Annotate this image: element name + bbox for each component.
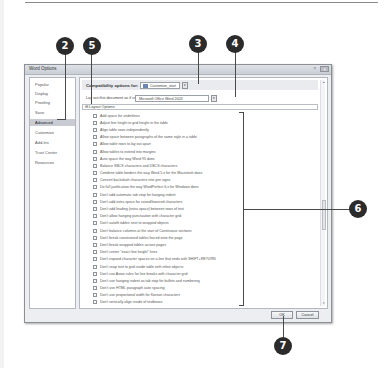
nav-item-popular[interactable]: Popular (30, 81, 75, 88)
list-item[interactable]: Don't use hanging indent as tab stop for… (93, 277, 318, 284)
checkbox[interactable] (93, 121, 97, 125)
callout-3: 3 (189, 35, 207, 53)
scroll-up-icon[interactable]: ▴ (321, 80, 326, 85)
layout-as-value: Microsoft Office Word 2003 (139, 97, 182, 101)
checkbox[interactable] (93, 142, 97, 146)
list-item[interactable]: Don't vertically align inside of textbox… (93, 299, 318, 306)
layout-as-select[interactable]: Microsoft Office Word 2003 (135, 95, 209, 102)
checkbox[interactable] (93, 185, 97, 189)
nav-item-proofing[interactable]: Proofing (30, 99, 75, 106)
checkbox[interactable] (93, 272, 97, 276)
close-button[interactable]: X (320, 66, 329, 72)
checkbox[interactable] (93, 200, 97, 204)
checkbox[interactable] (93, 286, 97, 290)
checkbox[interactable] (93, 193, 97, 197)
checkbox[interactable] (93, 250, 97, 254)
callout-2-leader-h (57, 119, 66, 120)
checkbox[interactable] (93, 265, 97, 269)
compatibility-label: Compatibility options for: (86, 83, 138, 88)
nav-item-trust-center[interactable]: Trust Center (30, 149, 75, 156)
list-item[interactable]: Don't use proportional width for Korean … (93, 292, 318, 299)
list-item[interactable]: Don't break constrained tables forced on… (93, 234, 318, 241)
list-item[interactable]: Don't autofit tables next to wrapped obj… (93, 220, 318, 227)
checkbox[interactable] (93, 293, 97, 297)
callout-4-leader (235, 52, 236, 97)
list-item[interactable]: Don't allow hanging punctuation with cha… (93, 213, 318, 220)
callout-6: 6 (349, 200, 367, 218)
callout-7-leader (283, 316, 284, 338)
checkbox[interactable] (93, 178, 97, 182)
list-item[interactable]: Don't expand character spaces on a line … (93, 256, 318, 263)
list-item[interactable]: Don't snap text to grid inside table wit… (93, 263, 318, 270)
layout-options-title: Layout Options (89, 105, 115, 109)
list-item[interactable]: Don't balance columns at the start of Co… (93, 227, 318, 234)
checkbox[interactable] (93, 214, 97, 218)
list-item[interactable]: Combine table borders the way Word 5.x f… (93, 170, 318, 177)
checkbox[interactable] (93, 135, 97, 139)
checkbox[interactable] (93, 164, 97, 168)
list-item[interactable]: Don't add automatic tab stop for hanging… (93, 191, 318, 198)
callout-5-leader (91, 54, 92, 104)
top-rule (25, 2, 378, 3)
checkbox[interactable] (93, 150, 97, 154)
nav-item-resources[interactable]: Resources (30, 159, 75, 166)
callout-3-leader (198, 52, 199, 84)
advanced-panel: Compatibility options for: Customize_sta… (79, 77, 328, 309)
checkbox[interactable] (93, 236, 97, 240)
scroll-down-icon[interactable]: ▾ (321, 301, 326, 306)
ok-button[interactable]: OK (271, 311, 293, 319)
list-item[interactable]: Do full justification the way WordPerfec… (93, 184, 318, 191)
callout-6-leader (243, 209, 351, 210)
panel-scrollbar[interactable]: ▴ ▾ (320, 80, 325, 306)
word-options-dialog: Word Options ? X Popular Display Proofin… (24, 64, 332, 323)
list-item[interactable]: Allow tables to extend into margins (93, 148, 318, 155)
list-item[interactable]: Add space for underlines (93, 112, 318, 119)
checkbox[interactable] (93, 171, 97, 175)
compatibility-document-select[interactable]: Customize_start (140, 82, 180, 89)
nav-item-advanced[interactable]: Advanced (30, 119, 75, 126)
nav-item-customize[interactable]: Customize (30, 129, 75, 136)
list-item[interactable]: Balance SBCS characters and DBCS charact… (93, 162, 318, 169)
dialog-title: Word Options (29, 66, 56, 71)
list-item[interactable]: Don't use Asian rules for line breaks wi… (93, 270, 318, 277)
nav-item-display[interactable]: Display (30, 90, 75, 97)
checkbox[interactable] (93, 300, 97, 304)
document-icon (143, 84, 148, 88)
list-item[interactable]: Don't center "exact line height" lines (93, 249, 318, 256)
checkbox[interactable] (93, 221, 97, 225)
list-item[interactable]: Convert backslash characters into yen si… (93, 177, 318, 184)
help-button[interactable]: ? (311, 66, 318, 72)
checkbox[interactable] (93, 279, 97, 283)
callout-2-leader (65, 54, 66, 120)
layout-options-header[interactable]: ⊟ Layout Options (82, 104, 318, 110)
callout-7: 7 (274, 337, 292, 355)
list-item[interactable]: Allow table rows to lay out apart (93, 141, 318, 148)
checkbox[interactable] (93, 243, 97, 247)
checkbox[interactable] (93, 114, 97, 118)
nav-item-save[interactable]: Save (30, 109, 75, 116)
title-bar: Word Options ? X (25, 65, 331, 75)
list-item[interactable]: Don't use HTML paragraph auto spacing (93, 285, 318, 292)
compatibility-document-value: Customize_start (150, 84, 176, 88)
checkbox[interactable] (93, 128, 97, 132)
list-item[interactable]: Align table rows independently (93, 126, 318, 133)
list-item[interactable]: Auto space the way Word 95 does (93, 155, 318, 162)
list-item[interactable]: Don't add extra space for raised/lowered… (93, 198, 318, 205)
nav-item-add-ins[interactable]: Add-Ins (30, 139, 75, 146)
collapse-icon: ⊟ (85, 105, 88, 109)
list-item[interactable]: Don't break wrapped tables across pages (93, 241, 318, 248)
page-margin (0, 0, 4, 368)
checkbox[interactable] (93, 257, 97, 261)
compatibility-dropdown-arrow-icon[interactable]: ▾ (182, 82, 188, 89)
callout-6-bracket-top (239, 112, 244, 113)
scroll-thumb[interactable] (322, 200, 326, 230)
layout-as-dropdown-arrow-icon[interactable]: ▾ (211, 95, 217, 102)
list-item[interactable]: Allow space between paragraphs of the sa… (93, 134, 318, 141)
callout-6-bracket-bottom (239, 305, 244, 306)
checkbox[interactable] (93, 157, 97, 161)
checkbox[interactable] (93, 207, 97, 211)
checkbox[interactable] (93, 229, 97, 233)
list-item[interactable]: Adjust line height to grid height in the… (93, 119, 318, 126)
compatibility-section: Compatibility options for: Customize_sta… (82, 80, 318, 90)
cancel-button[interactable]: Cancel (296, 311, 319, 319)
